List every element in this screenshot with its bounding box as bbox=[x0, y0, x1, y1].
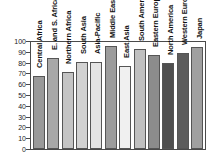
y-axis-tick-mark bbox=[26, 127, 30, 128]
category-label: South Asia bbox=[79, 16, 88, 54]
y-axis-tick-mark bbox=[26, 63, 30, 64]
category-label-slot: Eastern Europe bbox=[148, 0, 160, 150]
category-label-layer: Central AfricaE. and S. AfricaNorthern A… bbox=[30, 0, 206, 150]
y-axis-tick-mark bbox=[26, 95, 30, 96]
bar-chart: Central AfricaE. and S. AfricaNorthern A… bbox=[0, 0, 211, 165]
category-label: Central Africa bbox=[35, 20, 44, 68]
category-label-slot: South Asia bbox=[76, 0, 88, 150]
y-axis-tick-mark bbox=[26, 117, 30, 118]
category-label-slot: Northern Africa bbox=[61, 0, 73, 150]
category-label: Northern Africa bbox=[64, 11, 73, 64]
y-axis-tick-mark bbox=[26, 52, 30, 53]
category-label-slot: E. and S. Africa bbox=[47, 0, 59, 150]
category-label: Asia-Pacific bbox=[93, 12, 102, 53]
y-axis-tick-mark bbox=[26, 106, 30, 107]
category-label-slot: Japan bbox=[192, 0, 204, 150]
y-axis-tick-mark bbox=[26, 41, 30, 42]
category-label: E. and S. Africa bbox=[50, 0, 59, 50]
category-label-slot: Central Africa bbox=[32, 0, 44, 150]
category-label: South America bbox=[137, 0, 146, 41]
category-label-slot: Western Europe bbox=[177, 0, 189, 150]
category-label: East Asia bbox=[122, 25, 131, 58]
y-axis-tick-mark bbox=[26, 73, 30, 74]
category-label: North America bbox=[166, 5, 175, 55]
category-label-slot: Asia-Pacific bbox=[90, 0, 102, 150]
y-axis-tick-mark bbox=[26, 149, 30, 150]
category-label-slot: Middle East bbox=[105, 0, 117, 150]
category-label: Japan bbox=[195, 18, 204, 39]
category-label-slot: East Asia bbox=[119, 0, 131, 150]
category-label: Eastern Europe bbox=[151, 0, 160, 47]
y-axis-tick-mark bbox=[26, 84, 30, 85]
category-label-slot: South America bbox=[134, 0, 146, 150]
category-label-slot: North America bbox=[163, 0, 175, 150]
category-label: Middle East bbox=[108, 0, 117, 38]
category-label: Western Europe bbox=[180, 0, 189, 45]
y-axis-tick-mark bbox=[26, 138, 30, 139]
